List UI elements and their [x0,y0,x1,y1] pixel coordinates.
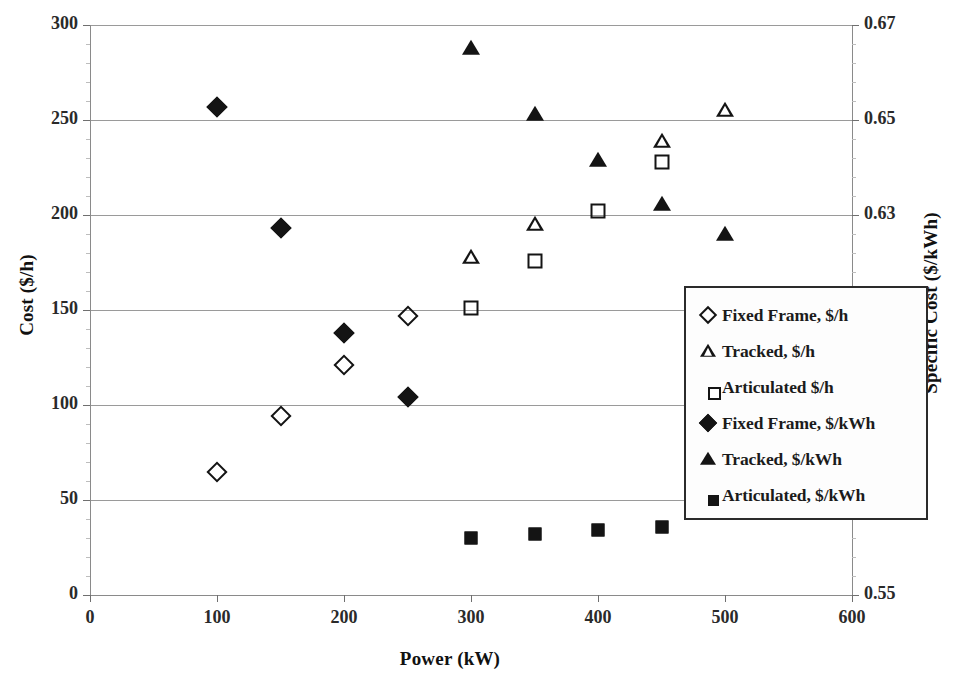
tickmark-minor [86,253,90,254]
legend-item-0[interactable]: Fixed Frame, $/h [698,297,926,333]
tickmark-minor [852,557,856,558]
tickmark-minor [852,158,856,159]
tickmark-y-right [852,120,859,121]
tickmark-minor [852,234,856,235]
tickmark-minor [86,82,90,83]
data-point-marker-diamond-open [270,406,291,427]
x-axis-tick-label: 200 [314,607,374,628]
tickmark-minor [86,557,90,558]
tickmark-y-left [83,25,90,26]
legend-item-label: Tracked, $/h [722,341,815,362]
tickmark-minor [86,139,90,140]
gridline-horizontal [90,120,852,121]
tickmark-minor [86,196,90,197]
legend-item-label: Tracked, $/kWh [722,449,842,470]
tickmark-minor [852,101,856,102]
x-axis-tick-label: 400 [568,607,628,628]
y-axis-left-tick-label: 250 [18,108,78,129]
tickmark-y-left [83,500,90,501]
y-axis-left-tick-label: 150 [18,298,78,319]
tickmark-y-left [83,310,90,311]
chart-legend: Fixed Frame, $/hTracked, $/hArticulated … [684,286,928,520]
y-axis-left-title: Cost ($/h) [16,205,38,385]
legend-item-4[interactable]: Tracked, $/kWh [698,441,926,477]
data-point-marker-square-filled [465,532,478,545]
y-axis-right-tick-label: 0.67 [864,13,934,34]
tickmark-minor [86,158,90,159]
data-point-marker-triangle-open [716,102,734,117]
tickmark-minor [852,177,856,178]
data-point-marker-square-open [527,253,542,268]
data-point-marker-diamond-filled [206,96,227,117]
data-point-marker-diamond-open [206,461,227,482]
tickmark-minor [86,481,90,482]
tickmark-minor [852,82,856,83]
data-point-marker-diamond-open [333,354,354,375]
tickmark-minor [86,386,90,387]
tickmark-minor [852,139,856,140]
tickmark-minor [86,177,90,178]
data-point-marker-square-open [654,154,669,169]
data-point-marker-square-open [591,204,606,219]
data-point-marker-triangle-open [462,249,480,264]
marker-square-open-icon [698,376,722,398]
tickmark-x [90,595,91,602]
tickmark-minor [86,348,90,349]
data-point-marker-square-filled [528,528,541,541]
gridline-horizontal [90,25,852,26]
x-axis-title: Power (kW) [0,648,900,670]
marker-diamond-filled-icon [698,412,722,434]
x-axis-tick-label: 300 [441,607,501,628]
y-axis-left-tick-label: 200 [18,203,78,224]
tickmark-y-left [83,405,90,406]
tickmark-minor [86,519,90,520]
legend-item-3[interactable]: Fixed Frame, $/kWh [698,405,926,441]
marker-triangle-open-icon [698,340,722,362]
legend-item-1[interactable]: Tracked, $/h [698,333,926,369]
data-point-marker-triangle-filled [589,152,607,167]
tickmark-minor [852,272,856,273]
data-markers [90,25,852,85]
y-axis-right-tick-label: 0.65 [864,108,934,129]
x-axis-tick-label: 0 [60,607,120,628]
tickmark-minor [86,538,90,539]
tickmark-minor [852,253,856,254]
tickmark-y-right [852,215,859,216]
tickmark-minor [852,538,856,539]
tickmark-minor [86,443,90,444]
tickmark-minor [86,329,90,330]
data-point-marker-square-filled [655,520,668,533]
tickmark-minor [852,44,856,45]
tickmark-y-left [83,595,90,596]
tickmark-minor [86,576,90,577]
y-axis-left-line [90,25,91,595]
tickmark-x [725,595,726,602]
marker-triangle-filled-icon [698,448,722,470]
legend-item-label: Articulated, $/kWh [722,485,865,506]
legend-item-label: Articulated $/h [722,377,834,398]
data-point-marker-square-filled [592,524,605,537]
legend-item-label: Fixed Frame, $/kWh [722,413,875,434]
tickmark-x [471,595,472,602]
x-axis-tick-label: 100 [187,607,247,628]
tickmark-x [344,595,345,602]
x-axis-tick-label: 500 [695,607,755,628]
y-axis-left-tick-label: 0 [18,583,78,604]
tickmark-minor [86,424,90,425]
tickmark-y-right [852,595,859,596]
data-point-marker-square-open [464,301,479,316]
tickmark-minor [86,44,90,45]
legend-item-5[interactable]: Articulated, $/kWh [698,477,926,513]
chart-figure: Cost ($/h) Specific Cost ($/kWh) Power (… [0,0,959,683]
y-axis-right-tick-label: 0.55 [864,583,934,604]
tickmark-minor [86,63,90,64]
y-axis-left-tick-label: 300 [18,13,78,34]
data-point-marker-triangle-filled [716,226,734,241]
data-point-marker-triangle-open [526,216,544,231]
legend-item-2[interactable]: Articulated $/h [698,369,926,405]
data-point-marker-triangle-filled [653,195,671,210]
data-point-marker-triangle-open [653,132,671,147]
tickmark-minor [852,196,856,197]
marker-square-filled-icon [698,484,722,506]
legend-item-label: Fixed Frame, $/h [722,305,848,326]
